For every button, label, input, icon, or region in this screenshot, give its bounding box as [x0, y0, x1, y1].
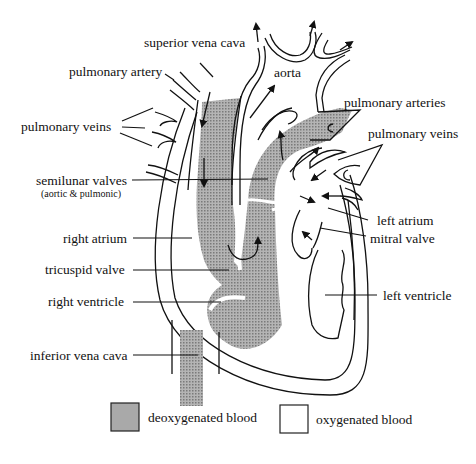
deoxygenated-region [180, 98, 352, 406]
legend-swatch-oxygenated [280, 405, 308, 433]
label-left-ventricle: left ventricle [383, 288, 452, 303]
heart-diagram: superior vena cava pulmonary artery pulm… [0, 0, 476, 464]
label-pulmonary-artery: pulmonary artery [69, 64, 163, 79]
label-semilunar-valves: semilunar valves [36, 173, 127, 188]
legend-label-deoxygenated: deoxygenated blood [148, 410, 257, 425]
arrow-mitral [303, 232, 312, 240]
label-right-atrium: right atrium [63, 231, 128, 246]
label-pulmonary-veins-right: pulmonary veins [368, 126, 458, 141]
label-pulmonary-veins-left: pulmonary veins [21, 119, 111, 134]
arrow-pulmonary-vein-2 [300, 196, 314, 202]
arrow-into-aorta [250, 86, 274, 118]
arrow-pulmonary-vein-1 [312, 170, 326, 180]
label-mitral-valve: mitral valve [370, 231, 435, 246]
label-superior-vena-cava: superior vena cava [144, 35, 245, 50]
label-semilunar-note: (aortic & pulmonic) [41, 188, 121, 200]
label-tricuspid-valve: tricuspid valve [45, 262, 125, 277]
left-atrium-walls [292, 145, 382, 259]
legend-label-oxygenated: oxygenated blood [316, 412, 413, 427]
label-aorta: aorta [274, 65, 301, 80]
label-pulmonary-arteries: pulmonary arteries [344, 95, 446, 110]
label-right-ventricle: right ventricle [48, 294, 124, 309]
legend: deoxygenated blood oxygenated blood [111, 403, 413, 433]
label-inferior-vena-cava: inferior vena cava [30, 348, 127, 363]
arrow-aorta-up [310, 22, 314, 36]
legend-swatch-deoxygenated [111, 403, 139, 431]
label-left-atrium: left atrium [377, 213, 434, 228]
arrow-aorta-up-left [256, 24, 258, 42]
